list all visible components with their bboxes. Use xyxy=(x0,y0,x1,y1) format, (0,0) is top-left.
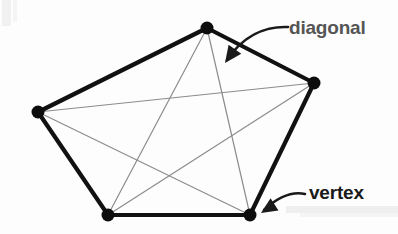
vertex-dot-bottom-right xyxy=(244,209,257,222)
diagonal-line xyxy=(38,112,250,215)
vertex-label: vertex xyxy=(309,182,364,204)
vertex-dot-left xyxy=(32,106,45,119)
vertex-dot-right xyxy=(308,77,321,90)
polygon-edge xyxy=(38,112,108,215)
polygon-edges-group xyxy=(38,28,314,215)
left-edge-stripe-artifact xyxy=(2,0,11,26)
bottom-right-band-artifact xyxy=(286,206,398,213)
bottom-right-band-artifact-2 xyxy=(300,213,398,217)
diagonal-label: diagonal xyxy=(289,17,366,39)
top-left-stripe-artifact xyxy=(13,0,17,22)
vertex-dot-bottom-left xyxy=(102,209,115,222)
vertex-dot-top xyxy=(201,22,214,35)
polygon-edge xyxy=(38,28,207,112)
vertex-dots-group xyxy=(32,22,321,222)
diagonals-group xyxy=(38,28,314,215)
diagram-canvas: diagonal vertex xyxy=(0,0,398,234)
